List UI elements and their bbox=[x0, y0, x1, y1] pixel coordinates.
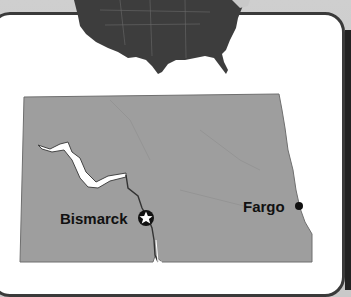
city-label-bismarck: Bismarck bbox=[60, 210, 128, 227]
north-dakota-map bbox=[20, 94, 312, 262]
bismarck-capital-star-icon bbox=[138, 210, 154, 226]
city-label-fargo: Fargo bbox=[243, 198, 285, 215]
fargo-dot-icon bbox=[295, 202, 303, 210]
us-locator-map bbox=[74, 0, 250, 74]
